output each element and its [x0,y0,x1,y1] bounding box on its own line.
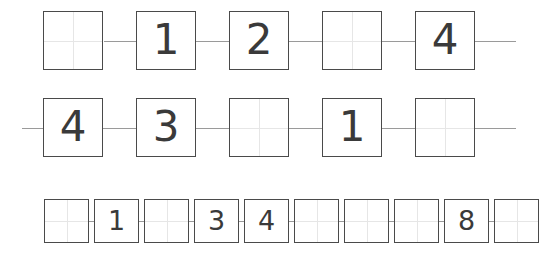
answer-box-empty[interactable] [43,11,103,70]
digit-value: 1 [323,99,381,156]
digit-value [416,99,474,156]
answer-box-filled[interactable]: 4 [244,199,289,243]
digit-value: 3 [137,99,195,156]
digit-value: 4 [416,12,474,69]
answer-box-filled[interactable]: 1 [136,11,196,70]
digit-value [295,200,338,242]
answer-box-empty[interactable] [144,199,189,243]
digit-value: 4 [245,200,288,242]
digit-value: 1 [137,12,195,69]
answer-box-filled[interactable]: 1 [94,199,139,243]
answer-box-empty[interactable] [322,11,382,70]
answer-box-empty[interactable] [294,199,339,243]
answer-box-empty[interactable] [44,199,89,243]
answer-box-empty[interactable] [494,199,539,243]
digit-value: 1 [95,200,138,242]
digit-value [323,12,381,69]
answer-box-filled[interactable]: 4 [415,11,475,70]
answer-box-filled[interactable]: 1 [322,98,382,157]
digit-value [145,200,188,242]
digit-value: 8 [445,200,488,242]
digit-value [230,99,288,156]
answer-box-filled[interactable]: 3 [194,199,239,243]
digit-value: 3 [195,200,238,242]
answer-box-empty[interactable] [229,98,289,157]
digit-value: 4 [44,99,102,156]
digit-value [44,12,102,69]
digit-value [395,200,438,242]
answer-box-filled[interactable]: 2 [229,11,289,70]
answer-box-empty[interactable] [415,98,475,157]
answer-box-filled[interactable]: 4 [43,98,103,157]
answer-box-empty[interactable] [344,199,389,243]
digit-value [495,200,538,242]
answer-box-filled[interactable]: 3 [136,98,196,157]
digit-value [45,200,88,242]
answer-box-empty[interactable] [394,199,439,243]
digit-value: 2 [230,12,288,69]
digit-value [345,200,388,242]
answer-box-filled[interactable]: 8 [444,199,489,243]
